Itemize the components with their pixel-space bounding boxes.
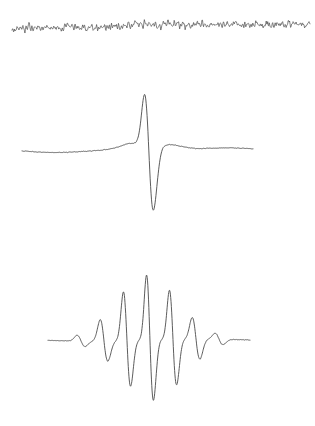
figure-canvas (0, 0, 315, 426)
signal-traces-figure (0, 0, 315, 426)
